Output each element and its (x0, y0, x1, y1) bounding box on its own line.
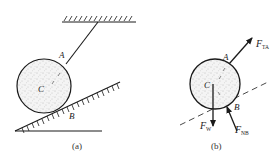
force-arrow-f-ta (229, 38, 252, 64)
label-b-point-c: C (204, 80, 211, 90)
label-f-w: FW (199, 120, 212, 132)
label-a-point-c: C (38, 84, 45, 94)
free-body-diagram-figure: A C B (a) A C B FTA FW FNB (b) (0, 0, 280, 167)
caption-a: (a) (72, 141, 82, 151)
figure-b: A C B FTA FW FNB (b) (180, 38, 269, 151)
ball (190, 59, 240, 109)
label-b-point-a: A (222, 52, 229, 62)
ceiling-support (62, 16, 136, 22)
label-a-point-b: B (69, 111, 75, 121)
caption-b: (b) (211, 141, 222, 151)
rope (66, 22, 98, 64)
label-b-point-b: B (234, 102, 240, 112)
figure-a: A C B (a) (15, 16, 136, 151)
label-f-nb: FNB (234, 124, 249, 136)
label-a-point-a: A (58, 50, 65, 60)
label-f-ta: FTA (255, 38, 269, 50)
